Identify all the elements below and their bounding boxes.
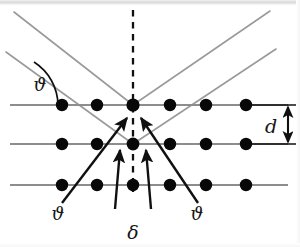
lattice-dot: [164, 99, 176, 111]
lattice-dot: [240, 179, 252, 191]
bragg-diffraction-figure: ϑ ϑ ϑ δ d: [0, 0, 300, 247]
label-theta-incident: ϑ: [34, 74, 47, 95]
lattice-dot: [200, 179, 212, 191]
black-beam-group: [62, 118, 198, 209]
lattice-dot-scatter-second: [127, 138, 140, 151]
diffracted-ray-upper: [133, 11, 270, 105]
lattice-dot: [56, 99, 68, 111]
gray-ray-group: [6, 11, 276, 144]
figure-canvas: ϑ ϑ ϑ δ d: [0, 0, 300, 247]
lattice-dot-scatter-center: [126, 98, 139, 111]
lattice-dot: [200, 99, 212, 111]
lattice-dot: [91, 99, 103, 111]
lattice-dot: [240, 99, 252, 111]
lattice-dot: [56, 138, 68, 150]
delta-segment-right: [146, 150, 151, 209]
delta-segment-left: [115, 150, 120, 209]
label-theta-left: ϑ: [52, 203, 65, 224]
incident-ray-lower: [6, 52, 133, 144]
lattice-dot: [164, 179, 176, 191]
label-theta-right: ϑ: [191, 203, 204, 224]
lattice-dot: [91, 138, 103, 150]
lattice-dot: [240, 138, 252, 150]
lattice-dot: [56, 179, 68, 191]
label-path-difference-delta: δ: [127, 221, 138, 243]
lattice-dot: [127, 179, 139, 191]
lattice-dot: [164, 138, 176, 150]
diffracted-ray-lower: [133, 49, 276, 144]
label-interplanar-spacing-d: d: [265, 115, 277, 137]
incident-ray-upper: [14, 12, 133, 105]
lattice-dot: [91, 179, 103, 191]
lattice-dot: [200, 138, 212, 150]
